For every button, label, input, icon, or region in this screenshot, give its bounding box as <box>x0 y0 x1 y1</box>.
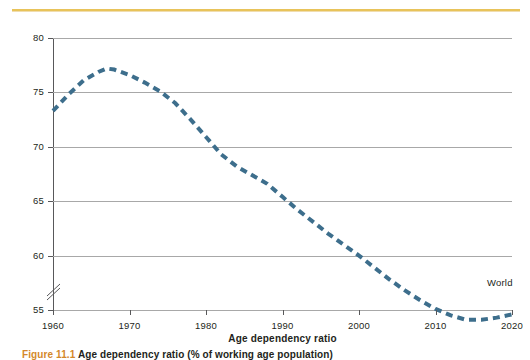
x-tick-label-1970: 1970 <box>108 320 152 331</box>
x-tick-label-1960: 1960 <box>31 320 75 331</box>
x-tick-label-2010: 2010 <box>414 320 458 331</box>
y-tick-mark-75 <box>48 92 53 93</box>
y-tick-mark-60 <box>48 256 53 257</box>
y-tick-mark-65 <box>48 201 53 202</box>
y-tick-mark-70 <box>48 147 53 148</box>
figure-caption-text: Age dependency ratio (% of working age p… <box>78 349 333 360</box>
series-line-world <box>0 0 530 360</box>
x-tick-mark-2000 <box>359 310 360 315</box>
figure-caption: Figure 11.1 Age dependency ratio (% of w… <box>22 349 333 360</box>
series-label-world: World <box>487 277 513 288</box>
x-tick-label-1980: 1980 <box>184 320 228 331</box>
x-tick-mark-1980 <box>206 310 207 315</box>
x-tick-mark-2010 <box>436 310 437 315</box>
x-tick-label-1990: 1990 <box>261 320 305 331</box>
figure-container: 556065707580 Percent World Age dependenc… <box>0 0 530 360</box>
x-tick-mark-1970 <box>130 310 131 315</box>
x-tick-mark-1960 <box>53 310 54 315</box>
x-tick-label-2000: 2000 <box>337 320 381 331</box>
x-axis-title: Age dependency ratio <box>53 333 512 344</box>
figure-caption-number: Figure 11.1 <box>22 349 75 360</box>
x-tick-mark-2020 <box>512 310 513 315</box>
x-tick-label-2020: 2020 <box>490 320 530 331</box>
y-tick-mark-80 <box>48 38 53 39</box>
x-tick-mark-1990 <box>283 310 284 315</box>
